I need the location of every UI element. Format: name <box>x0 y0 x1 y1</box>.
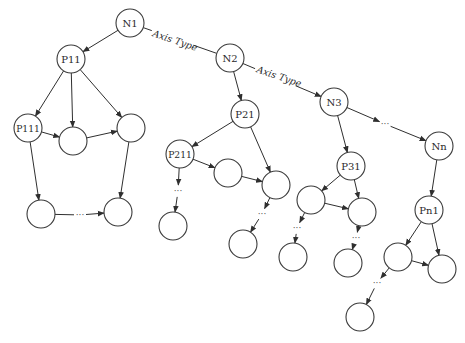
edge-P11-to-a2 <box>80 70 122 118</box>
edge-e_c1-to-c3 <box>295 234 296 243</box>
edge-N3-to-P31 <box>338 116 348 153</box>
edge-d1-to-e_d <box>381 268 389 278</box>
node-circle <box>104 198 132 226</box>
edge-c2-to-e_c2 <box>357 226 359 233</box>
node-circle <box>297 186 325 214</box>
node-circle <box>384 243 412 271</box>
edge-e_a-to-a4 <box>86 213 104 214</box>
edge-P31-to-c1 <box>322 175 341 191</box>
node-label: N2 <box>222 53 237 64</box>
node-n1: N1 <box>116 9 144 37</box>
edge-e_c2-to-c4 <box>352 244 354 250</box>
edge-N1-to-P11 <box>83 30 118 51</box>
edge-P11-to-a1 <box>71 73 72 127</box>
edge-P111-to-a1 <box>41 132 59 137</box>
edge-e_d-to-d3 <box>366 288 374 304</box>
node-unlabeled <box>117 114 145 142</box>
node-circle <box>117 114 145 142</box>
node-unlabeled <box>214 159 242 187</box>
node-unlabeled <box>334 249 362 277</box>
edge-e_b2-to-b4 <box>251 219 259 232</box>
edge-Nn-to-Pn1 <box>431 160 437 196</box>
node-circle <box>279 243 307 271</box>
node-label: P211 <box>168 149 192 160</box>
node-n2: N2 <box>216 44 244 72</box>
edge-P111-to-a3 <box>30 142 39 200</box>
edge-P21-to-b2 <box>251 127 271 172</box>
node-unlabeled <box>229 230 257 258</box>
node-label: Nn <box>431 141 447 152</box>
node-label: P31 <box>341 161 360 172</box>
node-p31: P31 <box>337 152 365 180</box>
node-label: Pn1 <box>419 205 439 216</box>
tree-diagram: ····················· N1N2N3NnP11P111P21… <box>0 0 465 343</box>
node-unlabeled <box>384 243 412 271</box>
node-unlabeled <box>27 200 55 228</box>
ellipsis-marker: ··· <box>258 209 267 219</box>
edge-P31-to-c2 <box>354 180 358 199</box>
node-circle <box>27 200 55 228</box>
edge-e_b1-to-b3 <box>175 197 177 212</box>
node-n3: N3 <box>320 88 348 116</box>
node-pn1: Pn1 <box>415 196 443 224</box>
node-label: N3 <box>326 97 341 108</box>
edge-P211-to-b1 <box>193 159 215 168</box>
edge-P211-to-e_b1 <box>178 168 179 185</box>
node-unlabeled <box>297 186 325 214</box>
ellipsis-marker: ··· <box>381 119 390 129</box>
edge-N2-to-P21 <box>234 72 242 101</box>
ellipsis-marker: ··· <box>76 210 85 220</box>
node-unlabeled <box>59 127 87 155</box>
edge-b1-to-b2 <box>242 176 263 181</box>
node-unlabeled <box>262 171 290 199</box>
ellipsis-marker: ··· <box>373 278 382 288</box>
edge-d1-to-d2 <box>412 261 429 266</box>
node-nn: Nn <box>425 132 453 160</box>
edge-b2-to-e_b2 <box>265 198 270 209</box>
node-circle <box>159 212 187 240</box>
edge-c1-to-c2 <box>325 203 349 209</box>
node-unlabeled <box>348 198 376 226</box>
node-p11: P11 <box>57 45 85 73</box>
nodes-layer: N1N2N3NnP11P111P21P211P31Pn1 <box>14 9 456 331</box>
node-label: P11 <box>61 54 80 65</box>
node-unlabeled <box>346 303 374 331</box>
axis-type-label: Axis Type <box>254 63 303 89</box>
ellipsis-marker: ··· <box>174 186 183 196</box>
edge-e_top-to-Nn <box>391 126 426 140</box>
edge-c1-to-e_c1 <box>300 213 305 223</box>
node-label: P111 <box>16 123 40 134</box>
node-p211: P211 <box>166 140 194 168</box>
node-circle <box>262 171 290 199</box>
node-circle <box>229 230 257 258</box>
node-circle <box>334 249 362 277</box>
edge-Pn1-to-d1 <box>406 222 422 246</box>
node-circle <box>346 303 374 331</box>
node-unlabeled <box>104 198 132 226</box>
node-circle <box>59 127 87 155</box>
edge-N3-to-e_top <box>347 108 380 122</box>
node-label: N1 <box>122 18 137 29</box>
node-p21: P21 <box>231 100 259 128</box>
node-circle <box>428 255 456 283</box>
node-unlabeled <box>428 255 456 283</box>
edge-P11-to-P111 <box>35 71 63 116</box>
axis-type-label: Axis Type <box>150 27 199 53</box>
node-unlabeled <box>159 212 187 240</box>
ellipsis-marker: ··· <box>352 233 361 243</box>
edge-a1-to-a2 <box>87 131 118 138</box>
node-label: P21 <box>235 109 254 120</box>
ellipsis-marker: ··· <box>293 223 302 233</box>
node-unlabeled <box>279 243 307 271</box>
edge-a2-to-a4 <box>120 142 129 198</box>
node-circle <box>214 159 242 187</box>
edge-Pn1-to-d2 <box>432 224 439 256</box>
node-p111: P111 <box>14 114 42 142</box>
node-circle <box>348 198 376 226</box>
edge-P21-to-P211 <box>192 121 233 146</box>
